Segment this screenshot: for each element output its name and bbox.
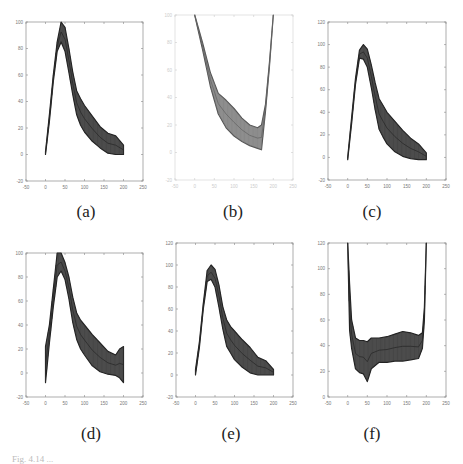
chart-svg: -50050100150200250-20020406080100	[155, 0, 315, 200]
svg-text:20: 20	[320, 132, 326, 137]
svg-text:250: 250	[442, 184, 450, 189]
svg-text:-50: -50	[172, 184, 179, 189]
svg-text:-20: -20	[16, 179, 23, 184]
plot-b: -50050100150200250-20020406080100	[155, 0, 315, 195]
svg-text:0: 0	[193, 184, 196, 189]
svg-text:-50: -50	[23, 401, 30, 406]
svg-text:-20: -20	[318, 178, 325, 183]
svg-text:150: 150	[100, 401, 108, 406]
svg-text:0: 0	[169, 150, 172, 155]
svg-text:250: 250	[139, 401, 147, 406]
subfigure-label-b: (b)	[203, 202, 263, 222]
svg-text:250: 250	[289, 184, 297, 189]
svg-text:150: 150	[250, 401, 258, 406]
subfigure-label-a: (a)	[56, 202, 116, 222]
svg-text:0: 0	[44, 185, 47, 190]
svg-text:200: 200	[120, 401, 128, 406]
plot-a: -50050100150200250-20020406080100	[0, 0, 160, 195]
svg-text:100: 100	[15, 20, 23, 25]
svg-text:0: 0	[346, 184, 349, 189]
svg-text:0: 0	[346, 401, 349, 406]
svg-text:120: 120	[165, 241, 173, 246]
svg-text:80: 80	[320, 292, 326, 297]
plot-d: -50050100150200250-20020406080100	[0, 235, 160, 415]
svg-text:250: 250	[442, 401, 450, 406]
svg-text:60: 60	[320, 318, 326, 323]
svg-text:0: 0	[20, 152, 23, 157]
svg-text:100: 100	[231, 401, 239, 406]
svg-text:40: 40	[167, 95, 173, 100]
svg-text:40: 40	[320, 343, 326, 348]
svg-text:0: 0	[170, 373, 173, 378]
svg-text:-20: -20	[166, 395, 173, 400]
svg-text:50: 50	[62, 401, 68, 406]
svg-text:50: 50	[365, 401, 371, 406]
plot-f: -50050100150200250020406080100120	[305, 225, 463, 415]
svg-text:0: 0	[322, 395, 325, 400]
svg-text:-20: -20	[165, 178, 172, 183]
svg-text:200: 200	[423, 184, 431, 189]
chart-svg: -50050100150200250-20020406080100	[0, 0, 160, 200]
svg-text:150: 150	[250, 184, 258, 189]
svg-text:100: 100	[230, 184, 238, 189]
svg-text:200: 200	[270, 401, 278, 406]
svg-text:0: 0	[44, 401, 47, 406]
svg-text:80: 80	[18, 46, 24, 51]
svg-text:250: 250	[139, 185, 147, 190]
svg-text:-50: -50	[325, 184, 332, 189]
svg-text:80: 80	[320, 65, 326, 70]
svg-text:80: 80	[168, 285, 174, 290]
svg-text:20: 20	[320, 369, 326, 374]
svg-text:0: 0	[194, 401, 197, 406]
svg-text:60: 60	[18, 299, 24, 304]
svg-text:20: 20	[168, 351, 174, 356]
svg-text:200: 200	[423, 401, 431, 406]
figure-caption: Fig. 4.14 ...	[12, 454, 53, 464]
svg-text:150: 150	[403, 184, 411, 189]
svg-text:60: 60	[320, 87, 326, 92]
svg-text:100: 100	[81, 185, 89, 190]
svg-text:150: 150	[100, 185, 108, 190]
svg-text:100: 100	[383, 401, 391, 406]
chart-svg: -50050100150200250020406080100120	[305, 225, 463, 425]
svg-text:20: 20	[18, 347, 24, 352]
svg-text:200: 200	[270, 184, 278, 189]
svg-text:0: 0	[322, 155, 325, 160]
plot-e: -50050100150200250-20020406080100120	[155, 225, 315, 415]
svg-text:100: 100	[165, 263, 173, 268]
svg-text:-50: -50	[23, 185, 30, 190]
svg-text:50: 50	[365, 184, 371, 189]
svg-text:150: 150	[403, 401, 411, 406]
chart-svg: -50050100150200250-20020406080100120	[155, 225, 315, 425]
subfigure-label-e: (e)	[201, 424, 261, 444]
subfigure-label-c: (c)	[342, 202, 402, 222]
svg-text:50: 50	[212, 184, 218, 189]
svg-text:60: 60	[167, 68, 173, 73]
svg-text:50: 50	[62, 185, 68, 190]
svg-text:40: 40	[320, 110, 326, 115]
svg-text:60: 60	[168, 307, 174, 312]
svg-text:-50: -50	[173, 401, 180, 406]
svg-text:20: 20	[167, 123, 173, 128]
svg-text:-50: -50	[325, 401, 332, 406]
svg-text:60: 60	[18, 73, 24, 78]
svg-text:40: 40	[18, 323, 24, 328]
svg-text:100: 100	[383, 184, 391, 189]
svg-text:40: 40	[168, 329, 174, 334]
svg-text:0: 0	[20, 371, 23, 376]
svg-text:250: 250	[289, 401, 297, 406]
chart-svg: -50050100150200250-20020406080100120	[305, 0, 463, 200]
subfigure-label-d: (d)	[61, 424, 121, 444]
svg-text:100: 100	[15, 251, 23, 256]
svg-text:120: 120	[317, 20, 325, 25]
svg-text:100: 100	[81, 401, 89, 406]
subfigure-label-f: (f)	[342, 424, 402, 444]
svg-text:20: 20	[18, 126, 24, 131]
svg-text:100: 100	[317, 266, 325, 271]
svg-text:80: 80	[18, 275, 24, 280]
chart-svg: -50050100150200250-20020406080100	[0, 235, 160, 435]
svg-text:100: 100	[164, 13, 172, 18]
svg-text:80: 80	[167, 40, 173, 45]
svg-text:100: 100	[317, 42, 325, 47]
svg-text:-20: -20	[16, 395, 23, 400]
